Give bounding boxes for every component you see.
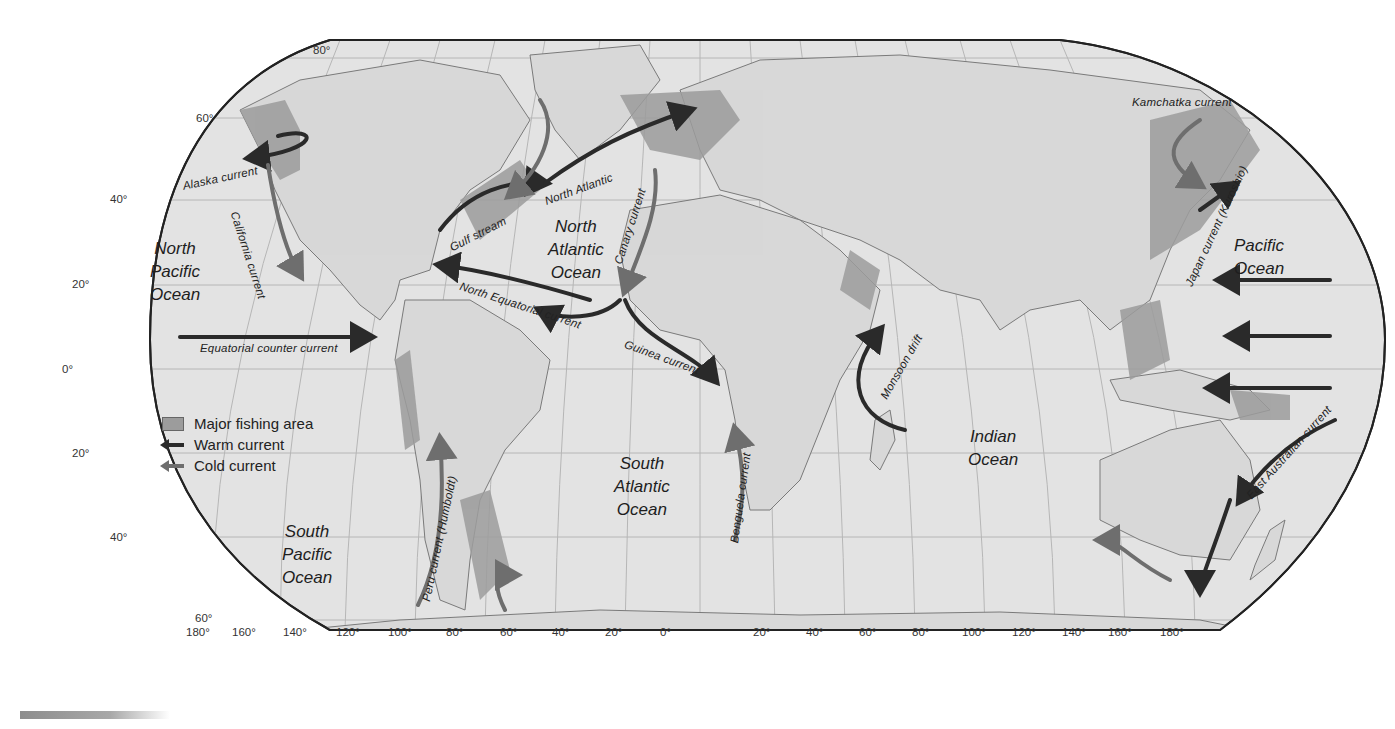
lon-label: 20° <box>605 626 622 638</box>
lon-label: 40° <box>806 626 823 638</box>
lon-label: 80° <box>446 626 463 638</box>
ocean-label-south-pacific: South Pacific Ocean <box>282 520 332 589</box>
map-legend: Major fishing area Warm current Cold cur… <box>160 413 313 476</box>
lon-label: 0° <box>660 626 671 638</box>
lon-label: 160° <box>232 626 256 638</box>
lat-label-0: 0° <box>62 363 73 375</box>
lat-label-80n: 80° <box>313 44 330 56</box>
ocean-label-south-atlantic: South Atlantic Ocean <box>614 452 670 521</box>
label-equatorial-counter-current: Equatorial counter current <box>200 342 338 354</box>
lat-label-60s: 60° <box>195 612 212 624</box>
lon-label: 180° <box>1160 626 1184 638</box>
lat-label-20n: 20° <box>72 278 89 290</box>
lon-label: 160° <box>1108 626 1132 638</box>
lat-label-20s: 20° <box>72 447 89 459</box>
lat-label-60n: 60° <box>196 112 213 124</box>
ocean-label-indian: Indian Ocean <box>968 425 1018 471</box>
warm-current-arrow-icon <box>160 439 186 451</box>
lon-label: 20° <box>753 626 770 638</box>
lon-label: 100° <box>388 626 412 638</box>
lon-label: 100° <box>962 626 986 638</box>
lon-label: 40° <box>552 626 569 638</box>
longitude-labels: 180° 160° 140° 120° 100° 80° 60° 40° 20°… <box>0 626 1395 642</box>
lon-label: 180° <box>186 626 210 638</box>
lon-label: 80° <box>912 626 929 638</box>
lat-label-40s: 40° <box>110 531 127 543</box>
ocean-label-pacific-east: Pacific Ocean <box>1234 234 1284 280</box>
cold-current-arrow-icon <box>160 460 186 472</box>
lon-label: 120° <box>336 626 360 638</box>
lat-label-40n: 40° <box>110 193 127 205</box>
legend-item-warm-current: Warm current <box>160 434 313 455</box>
decorative-gradient-bar <box>20 711 170 719</box>
lon-label: 60° <box>859 626 876 638</box>
lon-label: 140° <box>1062 626 1086 638</box>
lon-label: 140° <box>283 626 307 638</box>
lon-label: 120° <box>1012 626 1036 638</box>
label-kamchatka-current: Kamchatka current <box>1132 96 1232 108</box>
lon-label: 60° <box>500 626 517 638</box>
ocean-label-north-pacific: North Pacific Ocean <box>150 237 200 306</box>
fishing-area-swatch-icon <box>162 417 184 431</box>
legend-item-fishing-area: Major fishing area <box>160 413 313 434</box>
ocean-label-north-atlantic: North Atlantic Ocean <box>548 215 604 284</box>
legend-item-cold-current: Cold current <box>160 455 313 476</box>
